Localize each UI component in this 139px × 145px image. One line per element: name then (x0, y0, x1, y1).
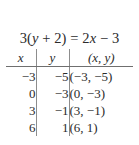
cell-ordered-pair: (6, 1) (69, 119, 133, 136)
table-row: 3 −1 (3, −1) (6, 102, 133, 119)
table-row: 0 −3 (0, −3) (6, 85, 133, 102)
table-header-row: x y (x, y) (6, 49, 133, 67)
equation-lhs-tail: + 2) (39, 30, 67, 46)
table-row: 6 1 (6, 1) (6, 119, 133, 136)
cell-ordered-pair: (0, −3) (69, 85, 133, 102)
equation-lhs-coefficient: 3 (20, 30, 27, 46)
table-row: −3 −5 (−3, −5) (6, 67, 133, 86)
value-table: x y (x, y) −3 −5 (−3, −5) 0 −3 (0, −3) 3 (6, 49, 133, 136)
value-table-container: x y (x, y) −3 −5 (−3, −5) 0 −3 (0, −3) 3 (6, 49, 133, 136)
equation-equals-sign: = (67, 30, 83, 46)
cell-x: 6 (6, 119, 36, 136)
column-header-x: x (6, 49, 36, 67)
cell-y: −1 (36, 102, 69, 119)
cell-x: 0 (6, 85, 36, 102)
worksheet-figure: 3(y + 2) = 2x − 3 x y (x, y) −3 −5 (−3, (0, 0, 139, 145)
cell-ordered-pair: (3, −1) (69, 102, 133, 119)
equation-rhs-tail: − 3 (96, 30, 119, 46)
column-header-y: y (36, 49, 69, 67)
cell-x: 3 (6, 102, 36, 119)
cell-y: −5 (36, 67, 69, 86)
equation-rhs-coefficient: 2 (82, 30, 89, 46)
cell-ordered-pair: (−3, −5) (69, 67, 133, 86)
cell-y: 1 (36, 119, 69, 136)
column-header-ordered-pair: (x, y) (69, 49, 133, 67)
cell-x: −3 (6, 67, 36, 86)
cell-y: −3 (36, 85, 69, 102)
equation-heading: 3(y + 2) = 2x − 3 (0, 30, 139, 46)
